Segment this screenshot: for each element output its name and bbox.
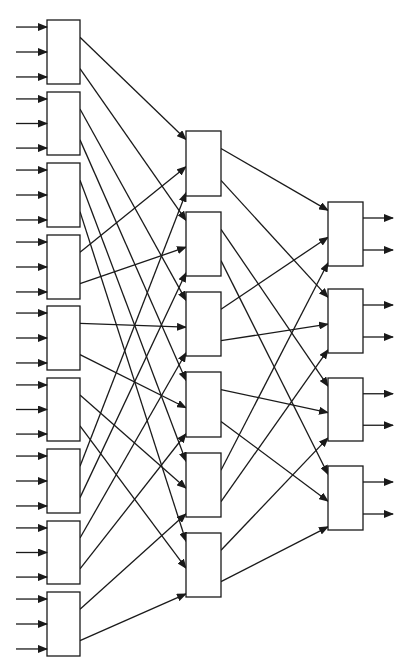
link-stage1-to-stage2 bbox=[80, 109, 186, 300]
stage-2-switch-box-6 bbox=[186, 533, 221, 597]
stage-2-switch-box-2 bbox=[186, 212, 221, 276]
link-stage1-to-stage2 bbox=[80, 426, 186, 568]
stage-1-switch-box-6 bbox=[47, 378, 80, 441]
link-stage1-to-stage2 bbox=[80, 180, 186, 461]
stage-1-switch-box-3 bbox=[47, 163, 80, 227]
stage-1-switch-box-9 bbox=[47, 592, 80, 656]
link-stage1-to-stage2 bbox=[80, 247, 186, 283]
link-stage1-to-stage2 bbox=[80, 514, 186, 609]
stage-3-switch-box-1 bbox=[328, 202, 363, 266]
stage-1-switch-box-4 bbox=[47, 235, 80, 299]
link-stage2-to-stage3 bbox=[221, 237, 328, 309]
link-stage1-to-stage2 bbox=[80, 37, 186, 139]
stage-1-switch-box-1 bbox=[47, 20, 80, 84]
stage-1-switch-box-2 bbox=[47, 92, 80, 155]
stage-2-switch-box-1 bbox=[186, 131, 221, 196]
stage-3-switch-box-2 bbox=[328, 289, 363, 353]
link-stage1-to-stage2 bbox=[80, 273, 186, 498]
stage-1-switch-box-5 bbox=[47, 306, 80, 370]
link-stage1-to-stage2 bbox=[80, 167, 186, 253]
stage-2-switch-box-5 bbox=[186, 453, 221, 517]
link-stage2-to-stage3 bbox=[221, 390, 328, 413]
link-stage1-to-stage2 bbox=[80, 594, 186, 641]
link-stage2-to-stage3 bbox=[221, 350, 328, 502]
switch-boxes bbox=[47, 20, 363, 656]
link-stage1-to-stage2 bbox=[80, 69, 186, 221]
stage-2-switch-box-3 bbox=[186, 292, 221, 356]
link-stage1-to-stage2 bbox=[80, 323, 186, 327]
link-stage1-to-stage2 bbox=[80, 434, 186, 569]
link-stage2-to-stage3 bbox=[221, 527, 328, 582]
link-stage2-to-stage3 bbox=[221, 180, 328, 297]
stage-3-switch-box-4 bbox=[328, 466, 363, 530]
stage-2-switch-box-4 bbox=[186, 372, 221, 437]
link-stage2-to-stage3 bbox=[221, 229, 328, 386]
interconnection-network-diagram bbox=[0, 0, 411, 665]
stage-1-switch-box-8 bbox=[47, 521, 80, 584]
link-stage1-to-stage2 bbox=[80, 193, 186, 467]
stage-1-switch-box-7 bbox=[47, 449, 80, 513]
link-stage2-to-stage3 bbox=[221, 421, 328, 501]
link-stage1-to-stage2 bbox=[80, 395, 186, 488]
link-stage2-to-stage3 bbox=[221, 149, 328, 211]
link-stage2-to-stage3 bbox=[221, 324, 328, 340]
stage-3-switch-box-3 bbox=[328, 378, 363, 441]
link-stage2-to-stage3 bbox=[221, 438, 328, 550]
